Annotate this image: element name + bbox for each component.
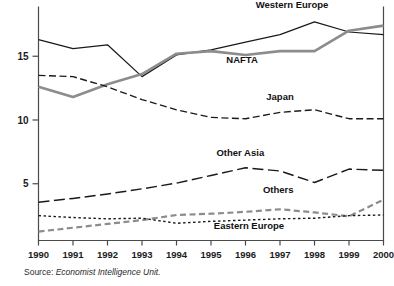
x-tick-label: 1990 <box>28 249 49 260</box>
y-tick-label: 5 <box>23 178 29 189</box>
x-axis-ticks: 1990199119921993199419951996199719981999… <box>28 241 394 260</box>
series-line-eastern-europe <box>39 215 384 223</box>
source-body: Economist Intelligence Unit. <box>56 267 161 277</box>
x-tick-label: 1994 <box>166 249 188 260</box>
series-lines <box>39 22 384 232</box>
series-annotations: Western EuropeNAFTAJapanOther AsiaOthers… <box>214 0 329 231</box>
x-tick-label: 1991 <box>62 249 84 260</box>
source-note: Source: Economist Intelligence Unit. <box>24 267 161 277</box>
line-chart: 51015 1990199119921993199419951996199719… <box>0 0 394 286</box>
y-tick-label: 15 <box>17 51 29 62</box>
y-axis-ticks: 51015 <box>17 51 38 190</box>
series-line-others <box>39 200 384 232</box>
chart-container: 51015 1990199119921993199419951996199719… <box>0 0 394 286</box>
x-tick-label: 1999 <box>338 249 359 260</box>
series-label-other-asia: Other Asia <box>216 147 264 158</box>
series-label-nafta: NAFTA <box>226 54 258 65</box>
series-label-eastern-europe: Eastern Europe <box>214 220 284 231</box>
series-line-other-asia <box>39 168 384 202</box>
x-tick-label: 2000 <box>373 249 394 260</box>
source-prefix: Source: <box>24 267 56 277</box>
series-line-japan <box>39 75 384 118</box>
x-tick-label: 1996 <box>235 249 256 260</box>
series-line-nafta <box>39 26 384 97</box>
x-tick-label: 1997 <box>269 249 290 260</box>
x-tick-label: 1995 <box>200 249 222 260</box>
series-line-western-europe <box>39 22 384 77</box>
series-label-others: Others <box>263 184 294 195</box>
x-tick-label: 1993 <box>131 249 152 260</box>
series-label-japan: Japan <box>266 91 294 102</box>
x-tick-label: 1998 <box>304 249 325 260</box>
x-tick-label: 1992 <box>97 249 118 260</box>
series-label-western-europe: Western Europe <box>256 0 329 10</box>
y-tick-label: 10 <box>17 115 29 126</box>
